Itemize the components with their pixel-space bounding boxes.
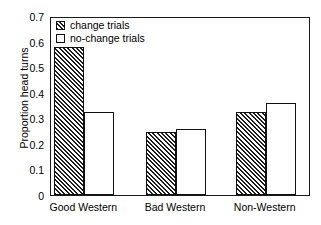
bar-change [146, 132, 176, 195]
y-tick-label: 0.1 [20, 165, 44, 175]
bar-no-change [176, 129, 206, 195]
y-tick-label: 0.6 [20, 38, 44, 48]
legend: change trials no-change trials [56, 20, 160, 46]
legend-swatch-open-icon [56, 34, 65, 43]
legend-item-no-change-trials: no-change trials [56, 33, 160, 44]
legend-label: change trials [70, 20, 130, 31]
y-tick-label: 0.3 [20, 114, 44, 124]
bar-no-change [266, 103, 296, 195]
y-tick-label: 0.4 [20, 89, 44, 99]
y-tick-label: 0.2 [20, 140, 44, 150]
x-tick-label: Bad Western [125, 200, 225, 214]
x-tick-label: Good Western [33, 200, 133, 214]
y-tick-label: 0.5 [20, 63, 44, 73]
bar-no-change [84, 112, 114, 195]
x-tick-label: Non-Western [215, 200, 315, 214]
legend-item-change-trials: change trials [56, 20, 160, 31]
bar-change [54, 47, 84, 195]
bar-chart-figure: Proportion head turns 00.10.20.30.40.50.… [0, 0, 321, 225]
legend-label: no-change trials [70, 33, 145, 44]
y-axis-ticks: 00.10.20.30.40.50.60.7 [20, 0, 44, 225]
legend-swatch-hatched-icon [56, 21, 65, 30]
y-tick-label: 0.7 [20, 12, 44, 22]
bar-change [236, 112, 266, 195]
